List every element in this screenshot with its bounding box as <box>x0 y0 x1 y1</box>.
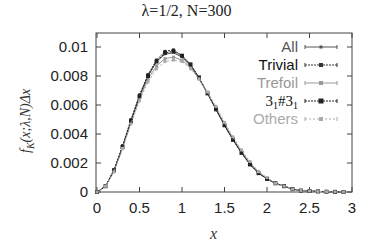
y-tick-label: 0 <box>80 183 88 200</box>
x-tick-label: 1 <box>178 199 186 216</box>
legend-composite-label: 31#31 <box>266 93 299 111</box>
plot-area: 00.511.522.5300.0020.0040.0060.0080.01 A… <box>0 0 373 251</box>
data-series <box>95 45 346 194</box>
y-tick-label: 0.01 <box>59 38 88 55</box>
series-line <box>97 51 344 192</box>
legend-all-label: All <box>281 38 298 55</box>
x-tick-label: 1.5 <box>214 199 235 216</box>
y-tick-label: 0.002 <box>50 154 88 171</box>
y-tick-label: 0.006 <box>50 96 88 113</box>
x-tick-label: 3 <box>348 199 356 216</box>
x-tick-label: 0.5 <box>129 199 150 216</box>
legend-trefoil-label: Trefoil <box>257 74 298 91</box>
x-tick-label: 2.5 <box>299 199 320 216</box>
x-tick-label: 0 <box>93 199 101 216</box>
legend-trivial-label: Trivial <box>259 56 298 73</box>
series-line <box>97 50 344 192</box>
y-tick-label: 0.008 <box>50 67 88 84</box>
series-line <box>97 57 344 192</box>
series-line <box>97 53 344 192</box>
legend-others-label: Others <box>253 110 298 127</box>
series-line <box>97 60 344 192</box>
legend: All Trivial Trefoil 31#31 Others <box>253 38 298 127</box>
y-tick-label: 0.004 <box>50 125 88 142</box>
x-tick-label: 2 <box>263 199 271 216</box>
